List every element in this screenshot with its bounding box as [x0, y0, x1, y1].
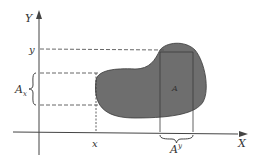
x-value-label: x — [92, 138, 98, 149]
y-axis-arrow-icon — [36, 10, 42, 19]
x-axis-label: X — [237, 137, 247, 150]
ax-label: A x — [14, 83, 27, 98]
y-dashed-line — [40, 49, 165, 50]
x-axis — [13, 132, 238, 134]
region-label: A — [171, 84, 178, 93]
svg-text:A: A — [14, 83, 23, 96]
ay-label: A y — [169, 142, 183, 156]
svg-text:y: y — [177, 142, 183, 150]
svg-text:x: x — [23, 90, 27, 98]
ax-brace-icon — [29, 73, 36, 105]
ay-brace-icon — [160, 135, 193, 143]
projection-diagram: Y y x X A A x A y — [0, 0, 269, 157]
svg-text:A: A — [169, 143, 178, 156]
y-axis-label: Y — [25, 12, 34, 25]
region-a — [95, 43, 206, 118]
y-value-label: y — [28, 44, 35, 55]
